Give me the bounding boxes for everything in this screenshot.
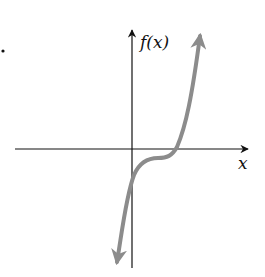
bullet-dot <box>1 49 4 52</box>
function-graph: f(x) x <box>0 0 265 277</box>
x-axis-label: x <box>238 153 248 173</box>
y-axis-label: f(x) <box>138 32 169 52</box>
